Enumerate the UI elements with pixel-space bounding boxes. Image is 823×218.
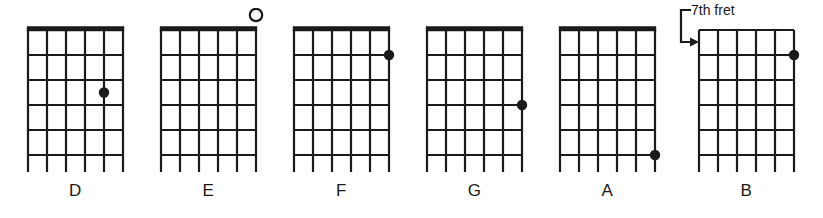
chord-name-label-f: F xyxy=(294,182,389,199)
chord-name-label-a: A xyxy=(560,182,655,199)
chord-name-label-e: E xyxy=(161,182,256,199)
finger-dot-s6-f3 xyxy=(517,100,527,110)
chord-grid-a xyxy=(546,8,669,180)
finger-dot-s5-f3 xyxy=(99,87,109,97)
arrowhead xyxy=(690,38,699,47)
open-string-circle-6 xyxy=(250,9,262,21)
chord-chart: DEFGAB7th fret xyxy=(0,0,823,218)
chord-name-label-d: D xyxy=(28,182,123,199)
chord-grid-g xyxy=(413,8,536,180)
chord-grid-f xyxy=(280,8,403,180)
chord-name-label-g: G xyxy=(427,182,522,199)
finger-dot-s6-f5 xyxy=(650,150,660,160)
finger-dot-s6-f1 xyxy=(384,50,394,60)
chord-grid-d xyxy=(14,8,137,180)
chord-grid-e xyxy=(147,8,270,180)
finger-dot-s6-f1 xyxy=(789,50,799,60)
start-fret-label: 7th fret xyxy=(691,3,735,17)
chord-name-label-b: B xyxy=(699,182,794,199)
